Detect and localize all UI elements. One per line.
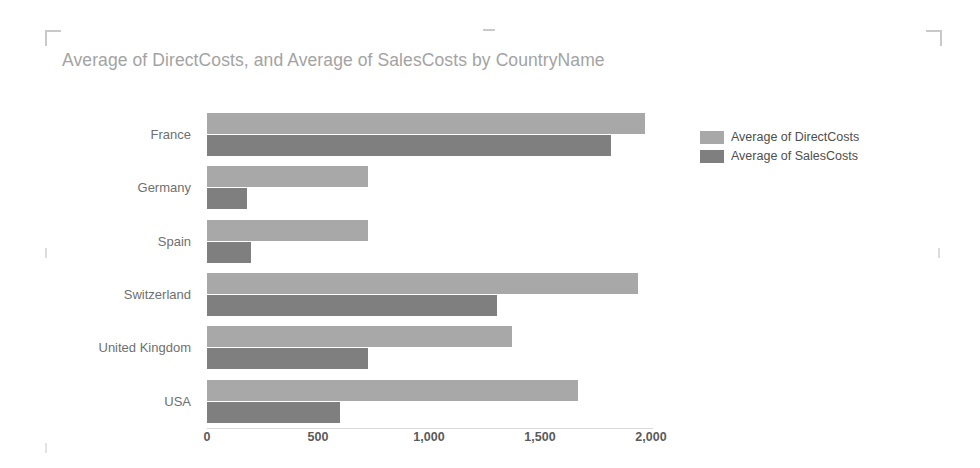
category-row: Germany xyxy=(60,161,201,214)
bar-group xyxy=(207,375,651,428)
x-tick-label: 0 xyxy=(204,430,211,444)
bar-direct-costs[interactable] xyxy=(207,166,368,187)
x-tick-label: 500 xyxy=(308,430,329,444)
category-row: Spain xyxy=(60,215,201,268)
legend-swatch-icon xyxy=(700,131,724,144)
x-axis-line xyxy=(207,428,653,429)
legend-label: Average of DirectCosts xyxy=(731,130,859,144)
x-tick-label: 1,000 xyxy=(413,430,444,444)
bar-group xyxy=(207,108,651,161)
bar-group xyxy=(207,268,651,321)
x-tick-label: 1,500 xyxy=(524,430,555,444)
bar-group xyxy=(207,215,651,268)
plot-area xyxy=(207,108,651,428)
category-row: France xyxy=(60,108,201,161)
bar-direct-costs[interactable] xyxy=(207,220,368,241)
category-label: USA xyxy=(164,394,201,409)
bar-sales-costs[interactable] xyxy=(207,348,368,369)
y-axis-category-labels: FranceGermanySpainSwitzerlandUnited King… xyxy=(60,108,201,428)
category-label: Germany xyxy=(138,180,201,195)
chart-legend[interactable]: Average of DirectCostsAverage of SalesCo… xyxy=(700,130,859,163)
bar-group xyxy=(207,161,651,214)
legend-item[interactable]: Average of SalesCosts xyxy=(700,149,859,163)
bar-sales-costs[interactable] xyxy=(207,242,251,263)
bar-direct-costs[interactable] xyxy=(207,273,638,294)
x-tick-label: 2,000 xyxy=(635,430,666,444)
legend-swatch-icon xyxy=(700,150,724,163)
category-label: Spain xyxy=(158,234,201,249)
legend-label: Average of SalesCosts xyxy=(731,149,858,163)
bar-sales-costs[interactable] xyxy=(207,295,497,316)
category-label: France xyxy=(151,127,201,142)
bar-direct-costs[interactable] xyxy=(207,113,645,134)
x-axis-tick-labels: 05001,0001,5002,000 xyxy=(0,430,980,452)
category-row: USA xyxy=(60,375,201,428)
category-row: United Kingdom xyxy=(60,321,201,374)
bar-chart-container[interactable]: Average of DirectCosts, and Average of S… xyxy=(0,0,980,468)
category-label: Switzerland xyxy=(124,287,201,302)
legend-item[interactable]: Average of DirectCosts xyxy=(700,130,859,144)
bar-sales-costs[interactable] xyxy=(207,135,611,156)
bar-sales-costs[interactable] xyxy=(207,188,247,209)
bar-group xyxy=(207,321,651,374)
bar-direct-costs[interactable] xyxy=(207,326,512,347)
bar-sales-costs[interactable] xyxy=(207,402,340,423)
bar-direct-costs[interactable] xyxy=(207,380,578,401)
category-row: Switzerland xyxy=(60,268,201,321)
category-label: United Kingdom xyxy=(99,340,202,355)
chart-title: Average of DirectCosts, and Average of S… xyxy=(62,50,605,71)
